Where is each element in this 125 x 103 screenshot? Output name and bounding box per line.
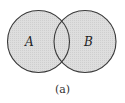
- venn-diagram: A B (a): [0, 0, 125, 103]
- diagram-caption: (a): [55, 83, 70, 96]
- set-b-label: B: [83, 35, 93, 49]
- set-a-label: A: [24, 35, 34, 49]
